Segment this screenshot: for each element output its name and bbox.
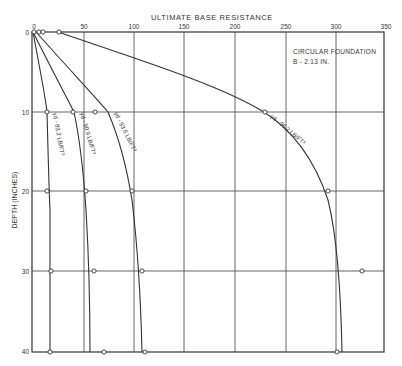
x-tick-label: 50	[80, 23, 88, 30]
data-markers	[32, 30, 364, 354]
x-tick-label: 350	[381, 23, 392, 30]
x-tick-label: 100	[129, 23, 140, 30]
y-tick-label: 20	[22, 188, 30, 195]
y-tick-labels: 0 10 20 30 40	[22, 29, 30, 355]
chart-svg: ULTIMATE BASE RESISTANCE 0 50 100 150 20…	[0, 0, 402, 366]
curve-label-96-2: γd - 96.2 LB/FT³	[269, 113, 306, 145]
y-tick-label: 0	[25, 29, 29, 36]
x-tick-label: 250	[281, 23, 292, 30]
y-axis-label: DEPTH (INCHES)	[11, 172, 19, 229]
x-tick-label: 300	[331, 23, 342, 30]
y-tick-label: 10	[22, 109, 30, 116]
x-tick-label: 200	[230, 23, 241, 30]
curves	[33, 32, 342, 352]
curve-93-6	[36, 32, 142, 352]
annotation-line-1: CIRCULAR FOUNDATION	[293, 48, 376, 55]
y-tick-label: 40	[22, 348, 30, 355]
x-tick-labels: 0 50 100 150 200 250 300 350	[32, 23, 392, 30]
curve-label-90-9: γd - 90.9 LB/FT³	[79, 112, 97, 155]
chart-title: ULTIMATE BASE RESISTANCE	[151, 13, 273, 22]
curve-label-83-2: γd - 83.2 LB/FT³	[52, 112, 65, 156]
curve-96-2	[58, 32, 342, 352]
x-tick-label: 0	[32, 23, 36, 30]
annotation-line-2: B - 2.13 IN.	[293, 58, 329, 65]
y-tick-label: 30	[22, 268, 30, 275]
x-tick-label: 150	[179, 23, 190, 30]
chart-container: ULTIMATE BASE RESISTANCE 0 50 100 150 20…	[0, 0, 402, 366]
